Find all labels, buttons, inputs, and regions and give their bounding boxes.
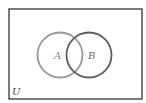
set-a-label: A	[53, 50, 61, 61]
universe-label: U	[12, 86, 21, 97]
universe-frame	[9, 9, 142, 99]
set-b-label: B	[87, 50, 95, 61]
venn-diagram: A B U	[0, 0, 146, 103]
